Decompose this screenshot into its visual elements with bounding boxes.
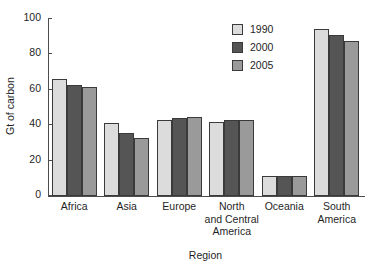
x-axis-tick-label-line: America bbox=[305, 213, 370, 226]
bar bbox=[329, 35, 344, 196]
x-axis-tick-label-line: America bbox=[200, 225, 265, 238]
legend-item: 1990 bbox=[232, 21, 273, 37]
bar-groups bbox=[48, 19, 363, 196]
bar bbox=[119, 133, 134, 196]
bar bbox=[224, 120, 239, 196]
bar bbox=[157, 120, 172, 196]
x-axis-title: Region bbox=[48, 249, 363, 261]
x-axis-tick-label-line: and Central bbox=[200, 213, 265, 226]
legend-label: 2005 bbox=[250, 59, 273, 71]
legend-label: 2000 bbox=[250, 41, 273, 53]
bar-group-bars bbox=[48, 19, 101, 196]
bar bbox=[172, 118, 187, 196]
x-axis-tick-label: SouthAmerica bbox=[305, 200, 370, 225]
bar-group-bars bbox=[311, 19, 364, 196]
bar bbox=[262, 176, 277, 196]
bar bbox=[209, 122, 224, 196]
bar-group bbox=[311, 19, 364, 196]
legend-item: 2000 bbox=[232, 39, 273, 55]
x-axis-line bbox=[48, 196, 365, 197]
bar bbox=[104, 123, 119, 196]
bar-group-bars bbox=[101, 19, 154, 196]
legend-swatch bbox=[232, 60, 243, 71]
y-axis-tick-label: 80 bbox=[29, 47, 41, 58]
bar-group-bars bbox=[153, 19, 206, 196]
bar-group bbox=[48, 19, 101, 196]
bar bbox=[187, 117, 202, 196]
y-axis-tick-label: 20 bbox=[29, 154, 41, 165]
bar-group bbox=[153, 19, 206, 196]
bar-group bbox=[101, 19, 154, 196]
bar bbox=[134, 138, 149, 196]
x-axis-tick-label-line: South bbox=[305, 200, 370, 213]
y-axis-tick-label: 100 bbox=[23, 12, 41, 23]
bar bbox=[239, 120, 254, 196]
y-axis-tick-label: 60 bbox=[29, 83, 41, 94]
bar-chart-figure: Gt of carbon 100806040200 AfricaAsiaEuro… bbox=[0, 0, 375, 268]
bar bbox=[277, 176, 292, 196]
legend-swatch bbox=[232, 42, 243, 53]
bar bbox=[314, 29, 329, 196]
bar bbox=[52, 79, 67, 196]
x-axis-tick-labels: AfricaAsiaEuropeNorthand CentralAmericaO… bbox=[48, 200, 363, 250]
y-axis-tick-label: 40 bbox=[29, 118, 41, 129]
legend: 199020002005 bbox=[232, 21, 273, 75]
y-axis-tick-label: 0 bbox=[35, 189, 41, 200]
y-axis-title: Gt of carbon bbox=[4, 56, 18, 156]
legend-swatch bbox=[232, 24, 243, 35]
bar bbox=[292, 176, 307, 196]
legend-label: 1990 bbox=[250, 23, 273, 35]
bar bbox=[82, 87, 97, 196]
legend-item: 2005 bbox=[232, 57, 273, 73]
bar bbox=[344, 41, 359, 196]
bar bbox=[67, 85, 82, 197]
